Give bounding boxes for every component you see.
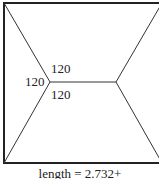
length-caption: length = 2.732+ — [39, 166, 122, 179]
edge-bottom-left — [4, 82, 50, 163]
edge-top-right — [116, 3, 159, 82]
angle-label-top: 120 — [51, 61, 71, 76]
angle-label-left: 120 — [25, 74, 45, 89]
edge-bottom-right — [116, 82, 159, 163]
edge-top-left — [4, 3, 50, 82]
steiner-diagram: 120 120 120 length = 2.732+ — [0, 0, 159, 179]
angle-label-bottom: 120 — [51, 87, 71, 102]
